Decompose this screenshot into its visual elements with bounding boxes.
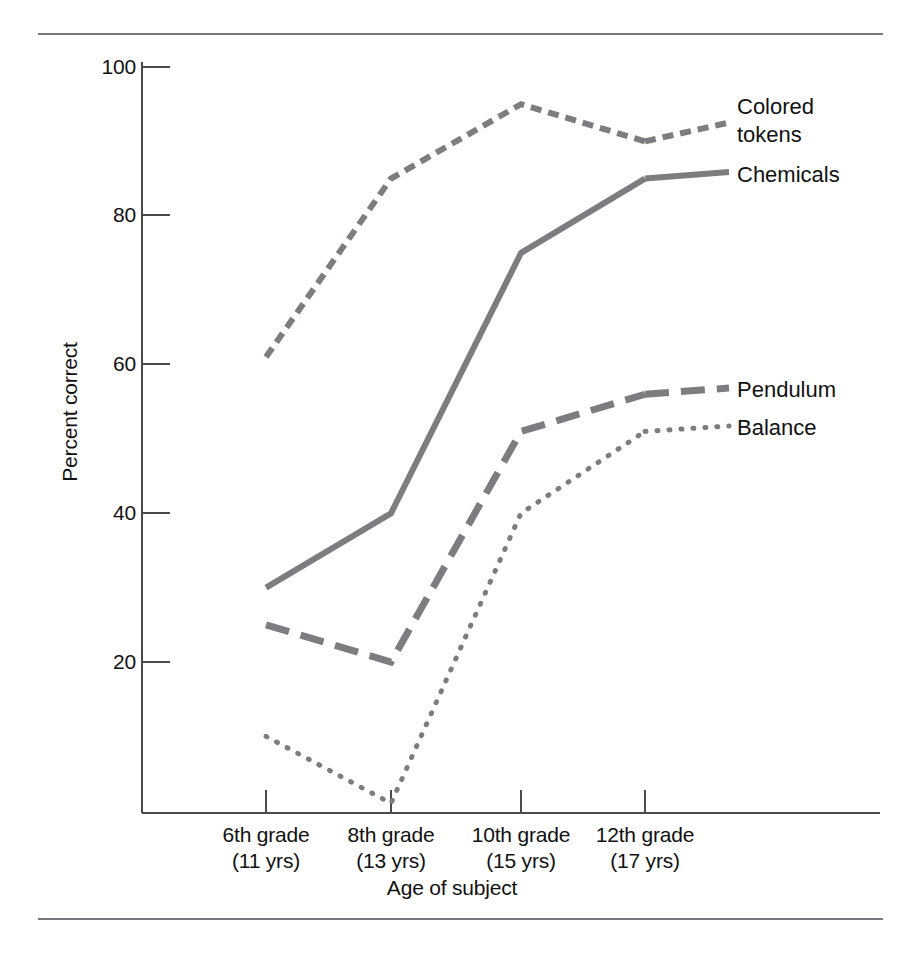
x-tick-label-12th-grade: 12th grade (17 yrs) [560, 822, 730, 873]
y-tick-label-60: 60 [76, 352, 136, 376]
figure-container: 100 80 60 40 20 Percent correct 6th grad… [0, 0, 921, 957]
series-line-colored-tokens [266, 104, 645, 357]
series-label-colored-tokens-line1: Colored [737, 93, 814, 121]
x-axis-title: Age of subject [142, 876, 762, 900]
y-tick-label-80: 80 [76, 203, 136, 227]
series-leader-balance [645, 426, 729, 431]
series-leader-pendulum [645, 388, 729, 394]
series-label-colored-tokens: Colored tokens [737, 93, 814, 148]
y-axis-title: Percent correct [58, 312, 82, 512]
data-series-layer [266, 104, 645, 803]
y-tick-label-20: 20 [76, 650, 136, 674]
series-label-leaders [645, 123, 729, 431]
x-axis-ticks [266, 790, 645, 813]
series-label-chemicals: Chemicals [737, 161, 840, 189]
series-leader-colored-tokens [645, 123, 727, 141]
series-leader-chemicals [645, 172, 729, 179]
series-line-pendulum [266, 394, 645, 662]
series-label-balance: Balance [737, 414, 817, 442]
series-label-pendulum: Pendulum [737, 376, 836, 404]
series-line-chemicals [266, 179, 645, 588]
x-tick-label-12th-grade-line2: (17 yrs) [560, 848, 730, 874]
y-axis-ticks [142, 67, 170, 662]
x-tick-label-12th-grade-line1: 12th grade [560, 822, 730, 848]
y-tick-label-40: 40 [76, 501, 136, 525]
series-label-colored-tokens-line2: tokens [737, 121, 814, 149]
series-line-balance [266, 431, 645, 803]
y-tick-label-100: 100 [76, 55, 136, 79]
